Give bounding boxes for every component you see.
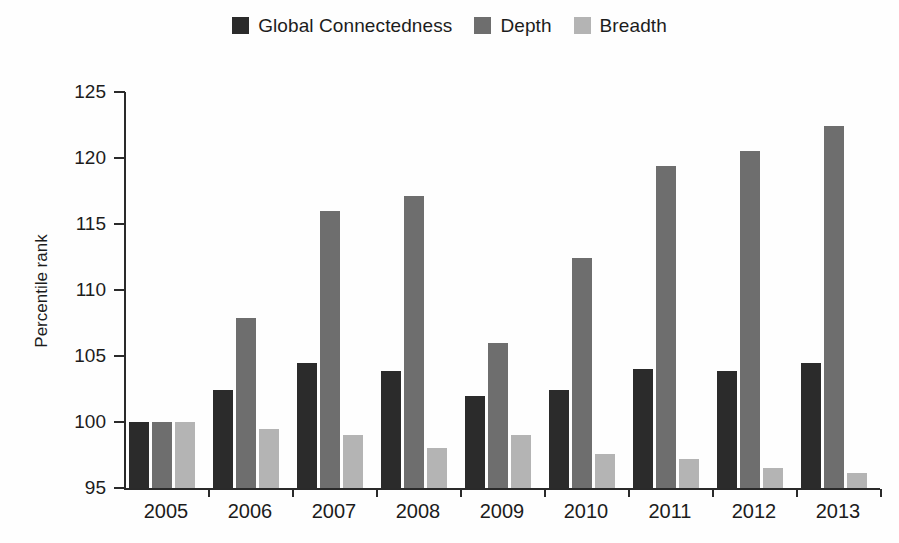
plot-area: Percentile rank 95100105110115120125 200… <box>0 0 899 543</box>
bar-2013-breadth <box>847 473 867 488</box>
x-axis-tick <box>460 489 462 497</box>
x-axis-label-2009: 2009 <box>460 500 544 522</box>
bar-group-2007 <box>297 0 363 488</box>
x-axis-tick <box>376 489 378 497</box>
bar-2011-breadth <box>679 459 699 488</box>
x-axis-tick <box>796 489 798 497</box>
bar-chart: Global Connectedness Depth Breadth Perce… <box>0 0 899 543</box>
bar-2005-global-connectedness <box>129 422 149 488</box>
bars-layer <box>0 0 899 488</box>
bar-2010-depth <box>572 258 592 488</box>
x-axis-tick <box>208 489 210 497</box>
x-axis-line <box>124 488 880 490</box>
x-axis-tick <box>628 489 630 497</box>
bar-group-2010 <box>549 0 615 488</box>
x-axis-label-2008: 2008 <box>376 500 460 522</box>
bar-2008-breadth <box>427 448 447 488</box>
bar-group-2005 <box>129 0 195 488</box>
x-axis-label-2006: 2006 <box>208 500 292 522</box>
bar-2013-global-connectedness <box>801 363 821 488</box>
bar-group-2012 <box>717 0 783 488</box>
bar-2006-global-connectedness <box>213 390 233 488</box>
x-axis-label-2005: 2005 <box>124 500 208 522</box>
bar-group-2013 <box>801 0 867 488</box>
x-axis-label-2013: 2013 <box>796 500 880 522</box>
x-axis-tick <box>292 489 294 497</box>
bar-2006-depth <box>236 318 256 488</box>
x-axis-tick <box>712 489 714 497</box>
bar-2008-depth <box>404 196 424 488</box>
bar-2012-depth <box>740 151 760 488</box>
bar-2009-breadth <box>511 435 531 488</box>
x-axis-label-2011: 2011 <box>628 500 712 522</box>
bar-group-2009 <box>465 0 531 488</box>
bar-2009-global-connectedness <box>465 396 485 488</box>
x-axis-label-2012: 2012 <box>712 500 796 522</box>
bar-2011-global-connectedness <box>633 369 653 488</box>
bar-2007-breadth <box>343 435 363 488</box>
bar-group-2006 <box>213 0 279 488</box>
bar-2008-global-connectedness <box>381 371 401 488</box>
bar-2010-global-connectedness <box>549 390 569 488</box>
x-axis-label-2010: 2010 <box>544 500 628 522</box>
bar-2009-depth <box>488 343 508 488</box>
bar-2013-depth <box>824 126 844 488</box>
bar-2007-global-connectedness <box>297 363 317 488</box>
x-axis-label-2007: 2007 <box>292 500 376 522</box>
bar-group-2011 <box>633 0 699 488</box>
bar-2005-breadth <box>175 422 195 488</box>
x-axis-tick <box>880 489 882 497</box>
bar-2005-depth <box>152 422 172 488</box>
bar-2012-global-connectedness <box>717 371 737 488</box>
bar-2011-depth <box>656 166 676 488</box>
bar-2007-depth <box>320 211 340 488</box>
bar-2012-breadth <box>763 468 783 488</box>
x-axis-tick <box>544 489 546 497</box>
bar-group-2008 <box>381 0 447 488</box>
bar-2010-breadth <box>595 454 615 488</box>
bar-2006-breadth <box>259 429 279 488</box>
